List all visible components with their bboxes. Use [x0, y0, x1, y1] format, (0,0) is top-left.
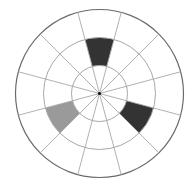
- spoke: [100, 72, 181, 94]
- spoke: [78, 94, 100, 175]
- polar-grid-diagram: [0, 0, 195, 184]
- spoke: [100, 94, 122, 175]
- center-dot: [98, 92, 101, 95]
- top-cell: [85, 38, 114, 67]
- spoke: [18, 72, 99, 94]
